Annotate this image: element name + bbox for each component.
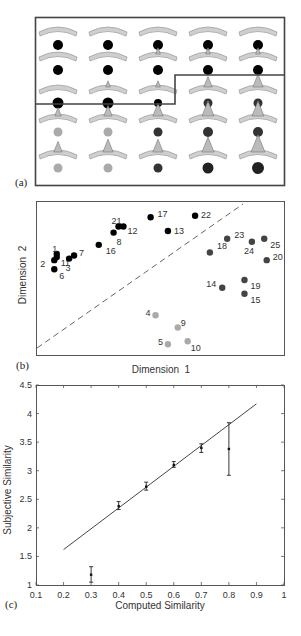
data-point <box>249 239 255 245</box>
category-dot <box>154 128 163 137</box>
point-label: 8 <box>117 237 122 247</box>
shape-spike <box>55 108 62 116</box>
error-bar <box>199 444 203 453</box>
point-label: 15 <box>250 295 260 305</box>
shape-cell <box>189 101 227 137</box>
y-axis-title: Subjective Similarity <box>2 445 13 534</box>
error-bar <box>89 567 93 582</box>
shape-spike <box>106 81 111 87</box>
panel-c-label: (c) <box>5 598 18 611</box>
data-point <box>207 249 213 255</box>
shape-grid <box>39 27 277 174</box>
shape-body <box>239 27 277 36</box>
category-dot <box>53 40 63 50</box>
panel-c: 0.10.20.30.40.50.60.70.80.9111.522.533.5… <box>2 380 287 611</box>
y-tick-label: 4.5 <box>19 380 32 390</box>
y-axis-title: Dimension 2 <box>17 245 28 304</box>
point-label: 16 <box>106 246 116 256</box>
shape-cell <box>89 139 127 172</box>
shape-spike <box>253 74 263 87</box>
shape-body <box>89 52 127 61</box>
data-point <box>241 277 247 283</box>
error-bar <box>227 423 231 476</box>
shape-cell <box>139 48 177 75</box>
shape-cell <box>239 27 277 50</box>
shape-body <box>39 52 77 61</box>
point-label: 24 <box>244 246 254 256</box>
data-point <box>110 229 116 235</box>
shape-cell <box>239 101 277 137</box>
point-label: 25 <box>270 240 280 250</box>
point-label: 10 <box>191 343 201 353</box>
data-point <box>241 291 247 297</box>
shape-cell <box>89 27 127 50</box>
shape-spike <box>202 137 214 152</box>
shape-spike <box>153 103 163 116</box>
x-tick-label: 0.2 <box>57 590 70 600</box>
category-dot <box>203 65 213 75</box>
point-label: 1 <box>52 244 57 254</box>
shape-spike <box>156 81 161 87</box>
category-dot <box>104 164 113 173</box>
category-dot <box>54 128 63 137</box>
point-label: 23 <box>234 230 244 240</box>
shape-cell <box>39 27 77 50</box>
y-tick-label: 3.5 <box>19 437 32 447</box>
shape-body <box>189 27 227 36</box>
category-dot <box>103 40 113 50</box>
shape-cell <box>139 27 177 50</box>
point-label: 9 <box>181 318 186 328</box>
point-label: 3 <box>66 263 71 273</box>
shape-cell <box>189 48 227 75</box>
shape-cell <box>139 139 177 172</box>
point-label: 22 <box>201 210 211 220</box>
x-tick-label: 0.7 <box>195 590 208 600</box>
y-tick-label: 3 <box>27 466 32 476</box>
point-label: 12 <box>127 226 137 236</box>
shape-spike <box>103 139 113 152</box>
data-point <box>71 252 77 258</box>
x-axis-title: Computed Similarity <box>115 600 204 611</box>
data-point <box>90 574 92 576</box>
data-point <box>219 284 225 290</box>
point-label: 7 <box>79 248 84 258</box>
point-label: 2 <box>40 259 45 269</box>
y-tick-label: 2 <box>27 523 32 533</box>
shape-spike <box>153 139 163 152</box>
shape-cell <box>139 103 177 136</box>
data-point <box>96 242 102 248</box>
panel-b-frame <box>37 202 285 356</box>
dashed-divider <box>37 204 243 348</box>
data-point <box>200 447 202 449</box>
y-tick-label: 2.5 <box>19 494 32 504</box>
y-tick-label: 4 <box>27 409 32 419</box>
shape-body <box>39 85 77 94</box>
data-point <box>224 236 230 242</box>
y-tick-label: 1 <box>27 580 32 590</box>
shape-cell <box>89 52 127 75</box>
category-dot <box>54 164 63 173</box>
data-point <box>261 236 267 242</box>
point-label: 13 <box>174 226 184 236</box>
x-tick-label: 1 <box>281 590 286 600</box>
point-label: 18 <box>217 241 227 251</box>
category-dot <box>53 65 63 75</box>
panel-a-label: (a) <box>15 176 28 189</box>
figure: (a) 121137616821121713221823242520141915… <box>0 0 301 636</box>
x-tick-label: 0.4 <box>112 590 125 600</box>
y-tick-label: 1.5 <box>19 551 32 561</box>
data-point <box>145 486 147 488</box>
category-dot <box>153 65 163 75</box>
shape-body <box>89 27 127 36</box>
shape-cell <box>239 48 277 75</box>
shape-body <box>39 27 77 36</box>
plot-area <box>64 404 257 582</box>
x-tick-label: 0.9 <box>250 590 263 600</box>
shape-cell <box>239 135 277 174</box>
category-dot <box>103 65 113 75</box>
category-dot <box>104 128 113 137</box>
category-dot <box>252 162 264 174</box>
panel-b: 1211376168211217132218232425201419154951… <box>16 202 285 376</box>
shape-spike <box>204 76 212 87</box>
x-tick-label: 0.8 <box>223 590 236 600</box>
